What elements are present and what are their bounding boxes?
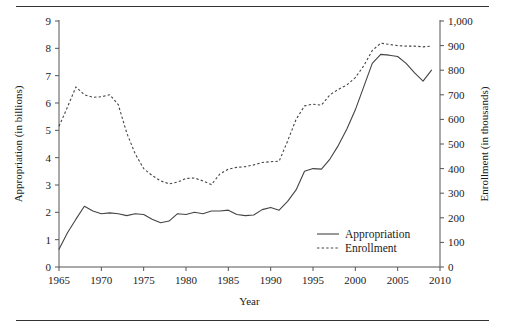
left-tick-label: 6 [46, 97, 52, 109]
bottom-tick-label: 2005 [387, 274, 410, 286]
left-tick-label: 4 [46, 152, 52, 164]
left-tick-label: 0 [46, 261, 52, 273]
series-line-appropriation [59, 54, 432, 249]
bottom-axis-title: Year [239, 295, 260, 307]
legend-label-appropriation: Appropriation [345, 228, 410, 241]
left-axis-ticks: 0123456789 [46, 15, 60, 273]
bottom-tick-label: 2010 [429, 274, 452, 286]
left-axis-title: Appropriation (in billions) [12, 85, 25, 202]
bottom-tick-label: 1970 [90, 274, 113, 286]
bottom-tick-label: 1975 [133, 274, 156, 286]
right-tick-label: 400 [448, 163, 465, 175]
bottom-tick-label: 1995 [302, 274, 325, 286]
right-tick-label: 800 [448, 64, 465, 76]
left-tick-label: 8 [46, 42, 52, 54]
bottom-tick-label: 1990 [260, 274, 283, 286]
right-tick-label: 1,000 [448, 15, 473, 27]
left-tick-label: 1 [46, 234, 52, 246]
series-line-enrollment [59, 43, 432, 184]
left-tick-label: 9 [46, 15, 52, 27]
bottom-tick-label: 1965 [48, 274, 71, 286]
left-tick-label: 3 [46, 179, 52, 191]
left-tick-label: 7 [46, 70, 52, 82]
right-tick-label: 700 [448, 89, 465, 101]
bottom-axis-ticks: 1965197019751980198519901995200020052010 [48, 267, 452, 286]
right-tick-label: 900 [448, 40, 465, 52]
legend-label-enrollment: Enrollment [345, 242, 398, 254]
chart-legend: Appropriation Enrollment [317, 228, 410, 254]
right-tick-label: 100 [448, 236, 465, 248]
left-tick-label: 2 [46, 206, 52, 218]
bottom-tick-label: 1980 [175, 274, 198, 286]
right-tick-label: 0 [448, 261, 454, 273]
figure-container: 0123456789 01002003004005006007008009001… [0, 0, 505, 328]
right-tick-label: 500 [448, 138, 465, 150]
right-tick-label: 200 [448, 212, 465, 224]
bottom-tick-label: 2000 [344, 274, 367, 286]
right-tick-label: 600 [448, 113, 465, 125]
right-axis-title: Enrollment (in thousands) [478, 86, 491, 201]
right-tick-label: 300 [448, 187, 465, 199]
right-axis-ticks: 01002003004005006007008009001,000 [440, 15, 473, 273]
left-tick-label: 5 [46, 124, 52, 136]
line-chart-plot: 0123456789 01002003004005006007008009001… [0, 0, 505, 328]
bottom-tick-label: 1985 [217, 274, 240, 286]
